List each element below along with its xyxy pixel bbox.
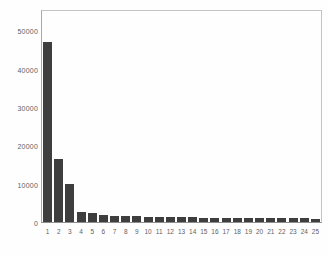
bar — [222, 218, 231, 222]
bar — [77, 212, 86, 222]
bar — [54, 159, 63, 222]
bar — [121, 216, 130, 222]
x-axis-labels: 1234567891011121314151617181920212223242… — [42, 228, 321, 240]
bar-chart-figure: 01000020000300004000050000 1234567891011… — [0, 0, 329, 256]
bar — [65, 184, 74, 222]
bar — [155, 217, 164, 222]
bar — [110, 216, 119, 222]
bar — [244, 218, 253, 222]
bar — [177, 217, 186, 222]
y-tick-label: 30000 — [18, 104, 38, 111]
bar — [144, 217, 153, 222]
bar — [255, 218, 264, 222]
bar — [300, 218, 309, 222]
bar — [43, 42, 52, 222]
plot-area — [41, 10, 322, 223]
bar — [289, 218, 298, 222]
bar — [99, 215, 108, 222]
bar — [233, 218, 242, 222]
y-tick-label: 40000 — [18, 66, 38, 73]
bar — [210, 218, 219, 222]
bar — [199, 218, 208, 222]
bar — [277, 218, 286, 222]
bar — [166, 217, 175, 222]
bar — [132, 216, 141, 222]
bar — [188, 217, 197, 222]
x-tick-label: 25 — [307, 228, 323, 236]
bar — [266, 218, 275, 222]
bar — [311, 219, 320, 222]
y-tick-label: 20000 — [18, 143, 38, 150]
y-tick-label: 0 — [34, 220, 38, 227]
bar — [88, 213, 97, 222]
y-tick-label: 50000 — [18, 28, 38, 35]
y-axis-labels: 01000020000300004000050000 — [0, 10, 38, 223]
y-tick-label: 10000 — [18, 181, 38, 188]
